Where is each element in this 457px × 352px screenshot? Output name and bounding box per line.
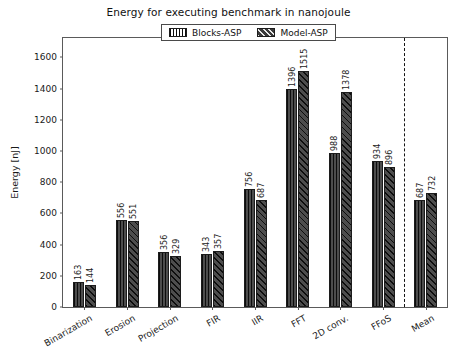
bar-value-label: 756 [245,172,254,187]
bar-value-label: 896 [385,150,394,165]
bar-model-asp: 732 [426,193,437,307]
x-tick-label: FFoS [370,313,393,332]
bar-blocks-asp: 556 [116,220,127,307]
plot-inner: 02004006008001000120014001600Binarizatio… [63,38,447,307]
legend-entry-blocks-asp: Blocks-ASP [169,28,241,38]
bar-blocks-asp: 988 [329,153,340,307]
y-tick-mark [60,57,63,58]
y-tick-mark [60,244,63,245]
y-axis-label: Energy [nJ] [7,37,21,308]
y-tick-label: 200 [40,271,57,281]
chart-legend: Blocks-ASP Model-ASP [161,24,336,41]
legend-label-model-asp: Model-ASP [280,28,327,38]
chart-title: Energy for executing benchmark in nanojo… [0,6,457,18]
bar-blocks-asp: 687 [414,200,425,307]
bar-model-asp: 1515 [298,71,309,307]
x-tick-label: FIR [205,313,222,329]
y-tick-label: 1400 [34,84,57,94]
plot-area: 02004006008001000120014001600Binarizatio… [62,37,448,308]
bar-model-asp: 329 [170,256,181,307]
bar-value-label: 1396 [287,67,296,87]
bar-value-label: 1378 [342,70,351,90]
bar-value-label: 329 [171,238,180,253]
y-axis-label-text: Energy [nJ] [9,146,20,199]
bar-value-label: 732 [427,176,436,191]
y-tick-mark [60,119,63,120]
y-tick-mark [60,275,63,276]
x-tick-mark [84,307,85,310]
bar-value-label: 556 [117,203,126,218]
bar-blocks-asp: 756 [244,189,255,307]
y-tick-label: 600 [40,208,57,218]
bar-blocks-asp: 934 [372,161,383,307]
x-tick-label: Mean [409,313,435,334]
bar-value-label: 357 [214,234,223,249]
x-tick-label: 2D conv. [311,313,350,341]
bar-blocks-asp: 163 [73,282,84,307]
bar-value-label: 356 [159,234,168,249]
bar-blocks-asp: 356 [158,252,169,308]
x-tick-mark [298,307,299,310]
y-tick-mark [60,182,63,183]
y-tick-label: 0 [51,302,57,312]
bar-value-label: 163 [74,264,83,279]
bar-model-asp: 687 [256,200,267,307]
bar-value-label: 144 [86,267,95,282]
y-tick-mark [60,213,63,214]
legend-label-blocks-asp: Blocks-ASP [192,28,241,38]
bar-model-asp: 357 [213,251,224,307]
bar-value-label: 934 [373,144,382,159]
bar-blocks-asp: 1396 [286,89,297,307]
y-tick-label: 1200 [34,115,57,125]
chart-figure: Energy for executing benchmark in nanojo… [0,0,457,352]
x-tick-label: IIR [250,313,265,327]
legend-swatch-icon-model-asp [257,28,275,37]
bar-value-label: 1515 [299,48,308,68]
y-tick-mark [60,151,63,152]
x-tick-mark [426,307,427,310]
bar-model-asp: 144 [85,285,96,307]
bar-blocks-asp: 343 [201,254,212,307]
bar-value-label: 988 [330,136,339,151]
x-tick-label: FFT [289,313,308,330]
bar-model-asp: 896 [384,167,395,307]
x-tick-mark [127,307,128,310]
y-tick-mark [60,88,63,89]
x-tick-mark [340,307,341,310]
x-tick-mark [212,307,213,310]
y-tick-label: 1000 [34,146,57,156]
bar-value-label: 343 [202,236,211,251]
y-tick-label: 800 [40,177,57,187]
y-tick-label: 1600 [34,52,57,62]
y-tick-mark [60,307,63,308]
x-tick-mark [383,307,384,310]
x-tick-mark [170,307,171,310]
bar-model-asp: 1378 [341,92,352,307]
legend-entry-model-asp: Model-ASP [257,28,327,38]
bar-value-label: 551 [129,204,138,219]
x-tick-mark [255,307,256,310]
bar-value-label: 687 [257,183,266,198]
y-tick-label: 400 [40,240,57,250]
x-tick-label: Projection [136,313,180,344]
x-tick-label: Erosion [103,313,137,338]
bar-model-asp: 551 [128,221,139,307]
mean-separator [404,38,405,307]
bar-value-label: 687 [415,183,424,198]
legend-swatch-icon-blocks-asp [169,28,187,37]
x-tick-label: Binarization [43,313,94,348]
